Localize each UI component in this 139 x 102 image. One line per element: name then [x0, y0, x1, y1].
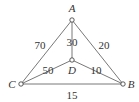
- node-a-label: A: [68, 2, 76, 14]
- node-d-marker: [70, 58, 74, 62]
- node-b-label: B: [128, 78, 135, 90]
- edge-weight-label: 20: [99, 39, 111, 51]
- node-a-marker: [70, 18, 74, 22]
- node-d-label: D: [67, 64, 76, 76]
- node-c-label: C: [8, 78, 16, 90]
- edge-weight-label: 70: [35, 39, 47, 51]
- weighted-graph-diagram: 702030501015 ABCD: [0, 0, 139, 102]
- edge-weight-label: 30: [67, 36, 79, 48]
- edge-weight-label: 10: [91, 64, 103, 76]
- edge-weight-label: 50: [43, 64, 55, 76]
- node-c-marker: [19, 82, 23, 86]
- node-b-marker: [121, 82, 125, 86]
- edge-weight-label: 15: [67, 89, 79, 101]
